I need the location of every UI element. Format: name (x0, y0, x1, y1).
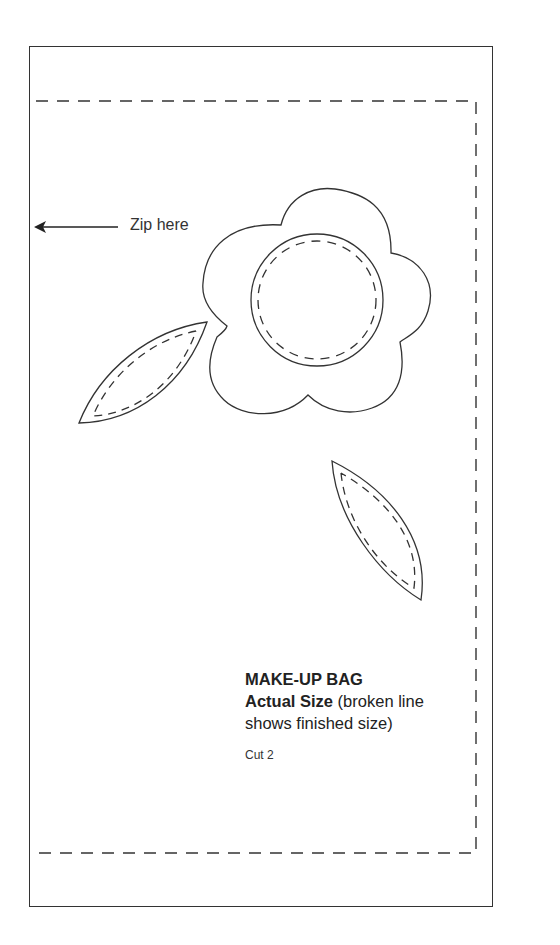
flower-center-stitch-line (258, 241, 376, 359)
right-leaf-stitch-line (341, 473, 415, 588)
broken-line-note: (broken line (333, 692, 424, 710)
zip-arrow-icon (34, 221, 118, 233)
pattern-subtitle: Actual Size (broken line (245, 690, 424, 712)
actual-size-label: Actual Size (245, 692, 333, 710)
flower-outline (203, 189, 431, 414)
pattern-title: MAKE-UP BAG (245, 668, 424, 690)
pattern-artwork (0, 0, 560, 945)
pattern-caption: MAKE-UP BAG Actual Size (broken line sho… (245, 668, 424, 762)
zip-here-label: Zip here (130, 216, 189, 234)
finished-size-note: shows finished size) (245, 712, 424, 734)
cut-instruction: Cut 2 (245, 748, 424, 762)
flower-center-outline (251, 234, 383, 366)
left-leaf-outline (79, 322, 207, 423)
right-leaf-outline (332, 461, 422, 600)
